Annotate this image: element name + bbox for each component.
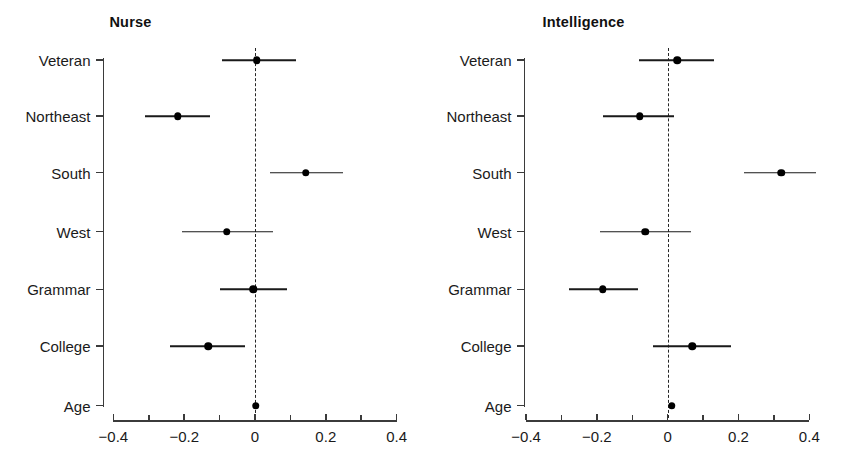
panel-nurse: Nurse VeteranNortheastSouthWestGrammarCo… (0, 0, 421, 464)
x-axis-tick (148, 415, 150, 420)
estimate-point-northeast (636, 112, 644, 120)
y-axis-tick (96, 405, 103, 407)
x-axis-tick (290, 415, 292, 420)
y-axis-label-age: Age (64, 397, 91, 414)
y-axis-label-grammar: Grammar (448, 281, 511, 298)
y-axis-label-south: South (472, 164, 511, 181)
x-axis-line (113, 420, 396, 422)
x-axis-tick (219, 415, 221, 420)
coefficient-plot-figure: Nurse VeteranNortheastSouthWestGrammarCo… (0, 0, 842, 464)
zero-reference-line (255, 48, 256, 418)
estimate-point-age (252, 402, 260, 410)
estimate-point-age (668, 402, 676, 410)
y-axis-tick (96, 231, 103, 233)
x-axis-tick (525, 414, 527, 420)
y-axis-label-age: Age (485, 397, 512, 414)
y-axis-tick (517, 405, 524, 407)
zero-reference-line (668, 48, 669, 418)
y-axis-label-veteran: Veteran (39, 52, 91, 69)
x-axis-tick (113, 414, 115, 420)
x-axis-tick (596, 414, 598, 420)
estimate-point-northeast (174, 112, 182, 120)
x-axis-label-0: 0 (664, 428, 672, 445)
estimate-point-west (223, 228, 231, 236)
x-axis-label-neg0_4: −0.4 (511, 428, 541, 445)
y-axis-tick (517, 345, 524, 347)
y-axis-label-grammar: Grammar (27, 281, 90, 298)
x-axis-label-0_2: 0.2 (728, 428, 749, 445)
y-axis-label-west: West (57, 223, 91, 240)
x-axis-label-0_4: 0.4 (799, 428, 820, 445)
y-axis-label-college: College (461, 338, 512, 355)
panel-intelligence: Intelligence VeteranNortheastSouthWestGr… (421, 0, 842, 464)
x-axis-label-neg0_4: −0.4 (99, 428, 129, 445)
x-axis-tick (632, 415, 634, 420)
x-axis-tick (738, 414, 740, 420)
x-axis-line (526, 420, 809, 422)
x-axis-label-0_2: 0.2 (315, 428, 336, 445)
x-axis-tick (809, 414, 811, 420)
x-axis-tick (396, 414, 398, 420)
x-axis-tick (183, 414, 185, 420)
estimate-point-college (205, 342, 213, 350)
y-axis-tick (517, 115, 524, 117)
plot-area-intelligence: VeteranNortheastSouthWestGrammarCollegeA… (421, 0, 842, 464)
estimate-point-college (689, 342, 697, 350)
y-axis-label-veteran: Veteran (460, 52, 512, 69)
x-axis-tick (702, 415, 704, 420)
y-axis-label-college: College (40, 338, 91, 355)
y-axis-tick (517, 59, 524, 61)
x-axis-tick (561, 415, 563, 420)
estimate-point-west (641, 228, 649, 236)
y-axis-tick (96, 345, 103, 347)
estimate-point-grammar (249, 286, 257, 294)
y-axis-tick (96, 115, 103, 117)
estimate-point-grammar (599, 286, 607, 294)
estimate-point-south (302, 169, 310, 177)
x-axis-tick (325, 414, 327, 420)
y-axis-label-northeast: Northeast (25, 108, 90, 125)
y-axis-tick (96, 289, 103, 291)
estimate-point-veteran (674, 56, 682, 64)
estimate-point-south (778, 169, 786, 177)
y-axis-label-west: West (478, 223, 512, 240)
y-axis-label-northeast: Northeast (446, 108, 511, 125)
y-axis-line (524, 58, 526, 407)
x-axis-tick (254, 414, 256, 420)
y-axis-tick (96, 59, 103, 61)
x-axis-tick (773, 415, 775, 420)
x-axis-label-0: 0 (251, 428, 259, 445)
x-axis-tick (360, 415, 362, 420)
y-axis-tick (517, 172, 524, 174)
y-axis-tick (517, 289, 524, 291)
plot-area-nurse: VeteranNortheastSouthWestGrammarCollegeA… (0, 0, 421, 464)
x-axis-label-0_4: 0.4 (386, 428, 407, 445)
y-axis-tick (96, 172, 103, 174)
y-axis-line (103, 58, 105, 407)
x-axis-label-neg0_2: −0.2 (582, 428, 612, 445)
x-axis-label-neg0_2: −0.2 (169, 428, 199, 445)
y-axis-label-south: South (51, 164, 90, 181)
y-axis-tick (517, 231, 524, 233)
estimate-point-veteran (253, 56, 261, 64)
x-axis-tick (667, 414, 669, 420)
